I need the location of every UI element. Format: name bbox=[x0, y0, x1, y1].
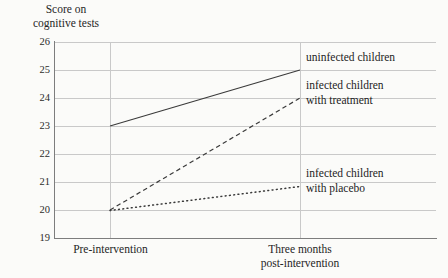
series-line-placebo bbox=[110, 187, 300, 211]
y-tick-24: 24 bbox=[24, 92, 50, 103]
y-tick-20: 20 bbox=[24, 204, 50, 215]
chart-canvas: Score on cognitive tests 26 bbox=[0, 0, 448, 278]
series-label-uninfected: uninfected children bbox=[306, 50, 395, 65]
y-tick-23: 23 bbox=[24, 120, 50, 131]
series-label-treatment: infected children with treatment bbox=[306, 78, 384, 107]
series-label-placebo: infected children with placebo bbox=[306, 166, 384, 195]
y-tick-21: 21 bbox=[24, 176, 50, 187]
plot-area bbox=[0, 0, 448, 278]
x-label-three-months-post-intervention: Three months post-intervention bbox=[235, 242, 365, 270]
y-tick-25: 25 bbox=[24, 64, 50, 75]
y-tick-22: 22 bbox=[24, 148, 50, 159]
x-label-pre-intervention: Pre-intervention bbox=[58, 242, 163, 256]
gridlines-vertical bbox=[111, 42, 301, 238]
y-tick-26: 26 bbox=[24, 36, 50, 47]
y-tick-19: 19 bbox=[24, 232, 50, 243]
